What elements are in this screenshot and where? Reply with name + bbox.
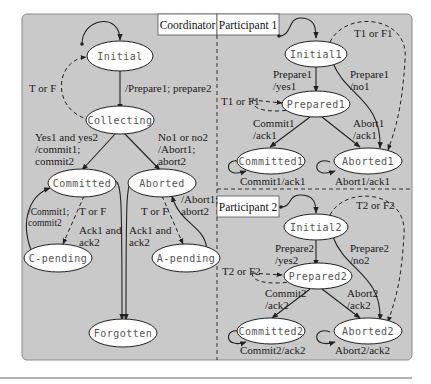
label-c-ack-2: ack2 — [79, 236, 100, 248]
state-committed: Committed — [48, 169, 116, 197]
coordinator-title: Coordinator — [160, 19, 216, 31]
p1-state-prepared: Prepared1 — [282, 91, 350, 117]
svg-text:C-pending: C-pending — [29, 253, 88, 264]
svg-text:Committed1: Committed1 — [238, 156, 303, 167]
svg-text:Aborted1: Aborted1 — [342, 156, 394, 167]
state-a-pending: A-pending — [152, 244, 220, 272]
p2-label-commit-1: Commit2 — [265, 287, 307, 299]
p2-label-prep-yes-1: Prepare2 — [275, 242, 314, 254]
label-yes-1: Yes1 and yes2 — [35, 131, 98, 143]
p1-label-prep-yes-2: /yes1 — [273, 80, 296, 92]
svg-text:Forgotten: Forgotten — [94, 328, 153, 339]
svg-text:Initial: Initial — [97, 51, 143, 62]
p1-label-abort-2: /ack1 — [353, 129, 377, 141]
p2-label-abort-self: Abort2/ack2 — [335, 344, 390, 356]
state-forgotten: Forgotten — [89, 319, 157, 347]
label-a-ack-1: Ack1 and — [129, 224, 172, 236]
state-c-pending: C-pending — [24, 244, 92, 272]
p2-state-prepared: Prepared2 — [284, 263, 352, 289]
p1-label-abort-1: Abort1 — [353, 117, 384, 129]
svg-text:Initial1: Initial1 — [290, 49, 342, 60]
label-a-resend-2: abort2 — [181, 205, 209, 217]
label-a-resend-1: /Abort1; — [181, 193, 218, 205]
two-phase-commit-diagram: Coordinator Participant 1 Participant 2 … — [0, 0, 431, 384]
p2-state-initial: Initial2 — [284, 214, 348, 240]
p2-label-commit-self: Commit2/ack2 — [240, 344, 305, 356]
state-collecting: Collecting — [86, 106, 154, 134]
svg-text:Aborted2: Aborted2 — [342, 326, 394, 337]
p2-state-committed: Committed2 — [237, 318, 305, 344]
p1-label-prep-no-1: Prepare1 — [350, 68, 389, 80]
participant2-title-box: Participant 2 — [217, 196, 279, 217]
label-no-2: /Abort1; — [158, 143, 195, 155]
p2-label-prep-yes-2: /yes2 — [275, 254, 298, 266]
p2-label-abort-1: Abort2 — [347, 287, 378, 299]
p2-label-timeout-left: T2 or F2 — [222, 265, 261, 277]
p1-label-prep-yes-1: Prepare1 — [273, 68, 312, 80]
label-prepare: /Prepare1; prepare2 — [125, 82, 211, 94]
svg-text:A-pending: A-pending — [157, 253, 216, 264]
svg-text:Initial2: Initial2 — [290, 222, 342, 233]
svg-text:Prepared1: Prepared1 — [287, 99, 346, 110]
p2-state-aborted: Aborted2 — [334, 318, 402, 344]
p1-state-initial: Initial1 — [285, 41, 347, 67]
p2-label-abort-2: /ack2 — [347, 299, 371, 311]
svg-text:Committed2: Committed2 — [238, 326, 303, 337]
svg-text:Collecting: Collecting — [87, 115, 152, 126]
p1-state-aborted: Aborted1 — [334, 148, 402, 174]
p1-label-commit-2: /ack1 — [253, 129, 277, 141]
p1-state-committed: Committed1 — [237, 148, 305, 174]
label-c-ack-1: Ack1 and — [79, 224, 122, 236]
svg-text:Prepared2: Prepared2 — [289, 271, 348, 282]
label-c-resend-2: commit2 — [28, 218, 62, 228]
label-yes-2: /commit1; — [35, 143, 80, 155]
label-a-ack-2: ack2 — [129, 236, 150, 248]
label-a-t-or-f: T or F — [141, 205, 168, 217]
label-yes-3: commit2 — [35, 155, 74, 167]
p1-label-prep-no-2: /no1 — [350, 80, 370, 92]
participant1-title-box: Participant 1 — [217, 14, 279, 35]
svg-text:Committed: Committed — [53, 178, 112, 189]
label-t-or-f: T or F — [29, 82, 56, 94]
coordinator-title-box: Coordinator — [158, 14, 217, 35]
p1-label-abort-self: Abort1/ack1 — [335, 175, 390, 187]
label-no-1: No1 or no2 — [158, 131, 208, 143]
p2-label-prep-no-1: Prepare2 — [350, 242, 389, 254]
participant2-title: Participant 2 — [219, 201, 278, 214]
p2-label-timeout-top: T2 or F2 — [356, 199, 395, 211]
label-no-3: abort2 — [158, 155, 186, 167]
label-c-t-or-f: T or F — [79, 205, 106, 217]
p1-label-commit-1: Commit1 — [253, 117, 295, 129]
p1-label-commit-self: Commit1/ack1 — [240, 175, 305, 187]
state-initial: Initial — [87, 41, 153, 71]
p1-label-timeout-left: T1 or F1 — [221, 95, 260, 107]
svg-text:Aborted: Aborted — [139, 178, 185, 189]
p2-label-commit-2: /ack2 — [265, 299, 289, 311]
participant1-title: Participant 1 — [219, 19, 278, 32]
label-c-resend-1: /Commit1; — [28, 207, 69, 217]
p2-label-prep-no-2: /no2 — [350, 254, 370, 266]
p1-label-timeout-top: T1 or F1 — [354, 27, 393, 39]
